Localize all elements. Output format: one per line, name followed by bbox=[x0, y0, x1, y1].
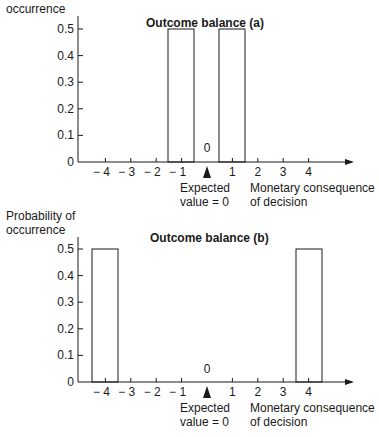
svg-text:− 2: − 2 bbox=[144, 385, 161, 399]
expected-value-label: Expected value = 0 bbox=[180, 401, 230, 429]
svg-text:0.5: 0.5 bbox=[57, 242, 74, 256]
svg-text:− 4: − 4 bbox=[93, 165, 110, 179]
svg-text:0: 0 bbox=[67, 375, 74, 389]
svg-text:0.4: 0.4 bbox=[57, 269, 74, 283]
x-axis-arrow-icon bbox=[345, 379, 354, 385]
y-ticks: 00.10.20.30.40.5 bbox=[57, 242, 83, 389]
svg-text:0: 0 bbox=[67, 155, 74, 169]
svg-text:− 3: − 3 bbox=[118, 165, 135, 179]
x-axis-label: Monetary consequence of decision bbox=[250, 401, 375, 429]
bar-minus-4 bbox=[92, 249, 118, 382]
expected-value-marker-icon bbox=[203, 166, 211, 178]
chart-outcome-balance-a: occurrence Outcome balance (a) 00.10.20.… bbox=[0, 0, 379, 215]
svg-text:2: 2 bbox=[254, 165, 261, 179]
svg-text:1: 1 bbox=[229, 385, 236, 399]
bar-plus-4 bbox=[296, 249, 322, 382]
svg-text:− 3: − 3 bbox=[118, 385, 135, 399]
x-ticks: − 4− 3− 2− 11234 bbox=[93, 158, 312, 179]
svg-text:− 1: − 1 bbox=[169, 165, 186, 179]
bar-plus-1 bbox=[219, 29, 245, 162]
bar-minus-1 bbox=[168, 29, 194, 162]
svg-text:0.3: 0.3 bbox=[57, 295, 74, 309]
svg-text:− 4: − 4 bbox=[93, 385, 110, 399]
expected-value-label: Expected value = 0 bbox=[180, 181, 230, 209]
chart-outcome-balance-b: Probability of occurrence Outcome balanc… bbox=[0, 215, 379, 437]
svg-text:0.1: 0.1 bbox=[57, 128, 74, 142]
svg-text:2: 2 bbox=[254, 385, 261, 399]
svg-text:− 2: − 2 bbox=[144, 165, 161, 179]
svg-text:1: 1 bbox=[229, 165, 236, 179]
svg-text:− 1: − 1 bbox=[169, 385, 186, 399]
svg-text:4: 4 bbox=[305, 165, 312, 179]
x-axis-arrow-icon bbox=[345, 159, 354, 165]
svg-text:0.2: 0.2 bbox=[57, 102, 74, 116]
expected-value-zero-label: 0 bbox=[204, 362, 211, 376]
expected-value-marker-icon bbox=[203, 386, 211, 398]
svg-text:3: 3 bbox=[280, 165, 287, 179]
expected-value-zero-label: 0 bbox=[204, 141, 211, 155]
svg-text:4: 4 bbox=[305, 385, 312, 399]
svg-text:0.4: 0.4 bbox=[57, 49, 74, 63]
svg-text:0.5: 0.5 bbox=[57, 22, 74, 36]
svg-text:0.2: 0.2 bbox=[57, 322, 74, 336]
svg-text:0.3: 0.3 bbox=[57, 75, 74, 89]
x-axis-label: Monetary consequence of decision bbox=[250, 181, 375, 209]
svg-text:0.1: 0.1 bbox=[57, 348, 74, 362]
y-ticks: 00.10.20.30.40.5 bbox=[57, 22, 83, 169]
svg-text:3: 3 bbox=[280, 385, 287, 399]
x-ticks: − 4− 3− 2− 11234 bbox=[93, 378, 312, 399]
